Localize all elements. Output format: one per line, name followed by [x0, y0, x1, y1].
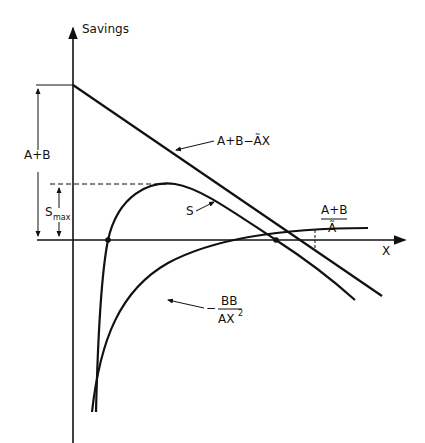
- y-axis-label: Savings: [82, 22, 129, 36]
- root-dot-right: [273, 237, 279, 243]
- leader-line-label: [176, 141, 214, 150]
- dim-intercept-label: A+B: [24, 148, 51, 162]
- leader-neg-label: [168, 300, 204, 308]
- curve-neg-den: AX: [218, 312, 234, 326]
- curve-neg-exp: 2: [238, 309, 243, 318]
- x-axis-label: X: [382, 244, 390, 258]
- x-intercept-num: A+B: [321, 203, 348, 217]
- dim-smax-label: S: [45, 205, 53, 219]
- root-dot-left: [105, 237, 111, 243]
- leader-s-label: [196, 202, 214, 211]
- dim-smax-sub: max: [53, 213, 71, 222]
- curve-neg-sign: −: [206, 301, 216, 315]
- line-label: A+B−ÃX: [217, 133, 270, 148]
- curve-neg-num: BB: [221, 294, 237, 308]
- curve-s-label: S: [186, 204, 194, 218]
- line-a-plus-b-minus-ax: [73, 85, 382, 296]
- savings-diagram: Savings X A+B−ÃX S A+B S max A+B Ã − BB …: [0, 0, 425, 443]
- x-intercept-den: Ã: [328, 220, 337, 235]
